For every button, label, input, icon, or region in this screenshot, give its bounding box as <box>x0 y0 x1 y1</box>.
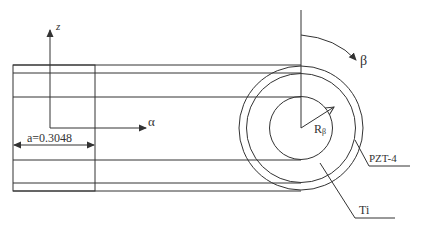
z-axis: z <box>50 20 61 128</box>
pzt4-callout: PZT-4 <box>355 140 410 166</box>
beta-axis: β <box>301 10 367 128</box>
ti-callout: Ti <box>320 163 395 218</box>
alpha-axis: α <box>50 114 155 129</box>
alpha-axis-label: α <box>148 114 155 129</box>
beta-axis-label: β <box>360 53 367 68</box>
radius-indicator: Rβ <box>301 107 334 136</box>
ti-label: Ti <box>359 203 370 217</box>
z-axis-label: z <box>55 20 61 32</box>
radius-label: Rβ <box>314 122 326 136</box>
pzt4-label: PZT-4 <box>369 152 397 164</box>
dimension-a-label: a=0.3048 <box>27 131 72 145</box>
dimension-a: a=0.3048 <box>14 131 94 145</box>
cylinder-cross-section-diagram: z α a=0.3048 β Rβ PZT-4 Ti <box>0 0 421 229</box>
